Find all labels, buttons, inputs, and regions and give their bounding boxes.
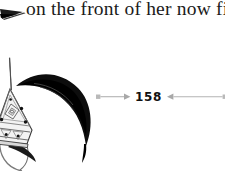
- body-text-line: on the front of her now fi: [26, 0, 225, 20]
- scanned-book-page: on the front of her now fi: [0, 0, 225, 171]
- folio-rule: 158: [96, 86, 224, 108]
- arrow-left-rule-icon: [167, 91, 225, 103]
- helmet-spike-icon: [9, 58, 11, 91]
- wedge-ornament-icon: [0, 6, 26, 22]
- plume-icon: [16, 74, 91, 163]
- page-number: 158: [131, 91, 167, 103]
- arrow-right-rule-icon: [96, 91, 131, 103]
- plumed-helmet-illustration: [0, 56, 114, 171]
- helmet-body: [0, 89, 32, 148]
